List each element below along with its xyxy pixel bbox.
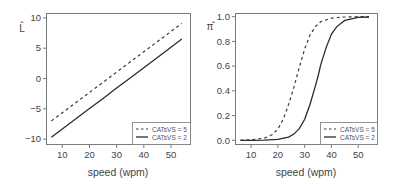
- legend-label-catsvs-5: CATsVS = 5: [152, 126, 187, 133]
- series-catsvs-2-line: [240, 17, 369, 140]
- x-axis-ticks: 1020304050: [246, 145, 364, 161]
- x-tick-label: 50: [166, 149, 177, 160]
- y-tick-label: 0.6: [217, 60, 230, 71]
- figure: 1020304050 −10−50510 speed (wpm) L̂ CATs…: [0, 0, 397, 184]
- x-tick-label: 20: [84, 149, 95, 160]
- y-tick-label: 5: [36, 42, 41, 53]
- legend: CATsVS = 5 CATsVS = 2: [133, 123, 191, 145]
- legend-label-catsvs-5: CATsVS = 5: [340, 126, 375, 133]
- x-tick-label: 50: [353, 149, 364, 160]
- y-tick-label: −5: [30, 103, 41, 114]
- y-axis-label: L̂: [19, 21, 25, 34]
- x-tick-label: 10: [246, 149, 257, 160]
- series-catsvs-5-line: [51, 23, 181, 121]
- y-tick-label: 0.8: [217, 36, 230, 47]
- x-tick-label: 30: [111, 149, 122, 160]
- y-tick-label: 10: [30, 12, 41, 23]
- y-axis-label: π̂: [207, 21, 216, 32]
- x-axis-label: speed (wpm): [276, 166, 337, 178]
- y-tick-label: 1.0: [217, 11, 230, 22]
- legend-label-catsvs-2: CATsVS = 2: [340, 134, 375, 141]
- y-tick-label: 0: [36, 73, 41, 84]
- x-tick-label: 20: [273, 149, 284, 160]
- legend: CATsVS = 5 CATsVS = 2: [321, 123, 378, 145]
- series-layer: [240, 17, 369, 141]
- legend-label-catsvs-2: CATsVS = 2: [152, 134, 187, 141]
- x-tick-label: 30: [299, 149, 310, 160]
- x-axis-ticks: 1020304050: [57, 145, 176, 161]
- x-axis-label: speed (wpm): [88, 166, 149, 178]
- x-tick-label: 10: [57, 149, 68, 160]
- x-tick-label: 40: [326, 149, 337, 160]
- probability-panel: 1020304050 0.00.20.40.60.81.0 speed (wpm…: [207, 11, 378, 178]
- series-catsvs-5-line: [240, 17, 369, 141]
- y-axis-ticks: −10−50510: [25, 12, 47, 144]
- y-axis-ticks: 0.00.20.40.60.81.0: [217, 11, 236, 146]
- y-tick-label: 0.4: [217, 85, 230, 96]
- y-tick-label: −10: [25, 133, 41, 144]
- x-tick-label: 40: [139, 149, 150, 160]
- y-tick-label: 0.0: [217, 135, 230, 146]
- series-layer: [51, 23, 181, 137]
- logit-panel: 1020304050 −10−50510 speed (wpm) L̂ CATs…: [19, 12, 190, 178]
- y-tick-label: 0.2: [217, 110, 230, 121]
